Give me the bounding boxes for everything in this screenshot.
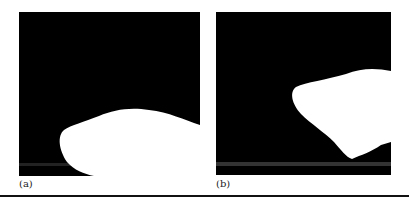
mask-shape-a [19, 12, 200, 176]
panel-a-label: (a) [19, 178, 33, 189]
panel-a-mask [19, 12, 200, 176]
bottom-rule [0, 195, 409, 197]
panel-b-label: (b) [216, 178, 230, 189]
panel-b-mask [216, 12, 391, 175]
mask-shape-b [216, 12, 391, 175]
